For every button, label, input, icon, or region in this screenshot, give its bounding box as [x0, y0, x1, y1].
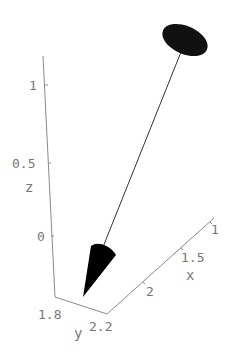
- x-axis-line: [107, 218, 214, 314]
- z-tick-label: 0.5: [12, 156, 35, 171]
- x-tick-label: 1.5: [181, 250, 204, 265]
- y-tick-label: 2.2: [89, 319, 112, 334]
- y-axis-label: y: [74, 325, 82, 341]
- arrow-tail-disk: [157, 17, 212, 62]
- x-tick-label: 2: [146, 284, 154, 299]
- x-tick-label: 1: [211, 222, 219, 237]
- x-axis-label: x: [186, 267, 194, 283]
- vector-plot-3d: 1 0.5 z 0 1.8 2.2 y 2 1.5 x 1: [0, 0, 233, 358]
- y-tick-label: 1.8: [38, 307, 61, 322]
- arrow-head-cone: [83, 244, 116, 297]
- y-axis-line: [55, 297, 107, 314]
- z-tick-label: 0: [37, 229, 45, 244]
- z-tick-label: 1: [29, 78, 37, 93]
- z-axis-line: [43, 56, 55, 297]
- x-tick-2: [143, 282, 145, 284]
- z-axis-label: z: [25, 179, 33, 195]
- arrow-shaft: [103, 52, 181, 247]
